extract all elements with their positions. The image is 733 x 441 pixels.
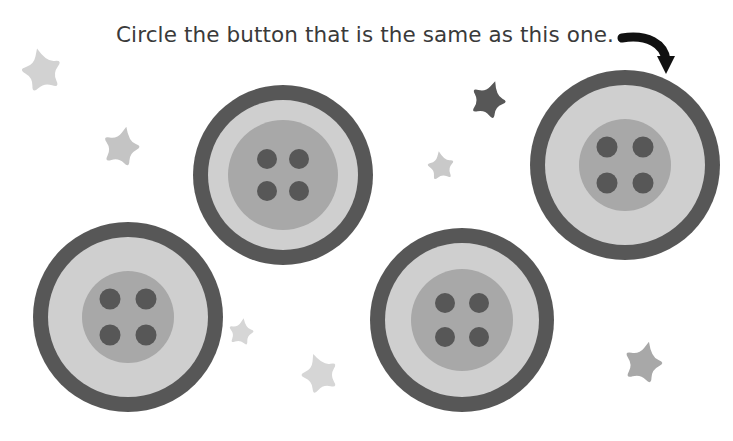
reference-button[interactable] bbox=[530, 70, 720, 260]
reference-button-hole-2 bbox=[633, 137, 654, 158]
button-bottom-left[interactable] bbox=[33, 222, 223, 412]
button-top-middle-hole-4 bbox=[289, 181, 309, 201]
worksheet-artwork: Circle the button that is the same as th… bbox=[0, 0, 733, 441]
page-title: Circle the button that is the same as th… bbox=[116, 22, 614, 47]
button-bottom-left-inner-circle bbox=[82, 271, 174, 363]
button-bottom-middle-hole-2 bbox=[469, 293, 489, 313]
button-top-middle-inner-circle bbox=[228, 120, 338, 230]
button-bottom-left-hole-3 bbox=[100, 325, 121, 346]
reference-button-hole-3 bbox=[597, 173, 618, 194]
button-bottom-middle-hole-4 bbox=[469, 327, 489, 347]
button-bottom-left-hole-2 bbox=[136, 289, 157, 310]
reference-button-hole-4 bbox=[633, 173, 654, 194]
button-bottom-middle[interactable] bbox=[370, 228, 554, 412]
reference-button-inner-circle bbox=[579, 119, 671, 211]
reference-button-hole-1 bbox=[597, 137, 618, 158]
button-bottom-left-hole-1 bbox=[100, 289, 121, 310]
worksheet-canvas: Circle the button that is the same as th… bbox=[0, 0, 733, 441]
button-bottom-left-hole-4 bbox=[136, 325, 157, 346]
button-bottom-middle-inner-circle bbox=[411, 269, 513, 371]
button-top-middle-hole-3 bbox=[257, 181, 277, 201]
button-bottom-middle-hole-3 bbox=[435, 327, 455, 347]
button-top-middle-hole-2 bbox=[289, 149, 309, 169]
button-top-middle[interactable] bbox=[193, 85, 373, 265]
button-top-middle-hole-1 bbox=[257, 149, 277, 169]
button-bottom-middle-hole-1 bbox=[435, 293, 455, 313]
